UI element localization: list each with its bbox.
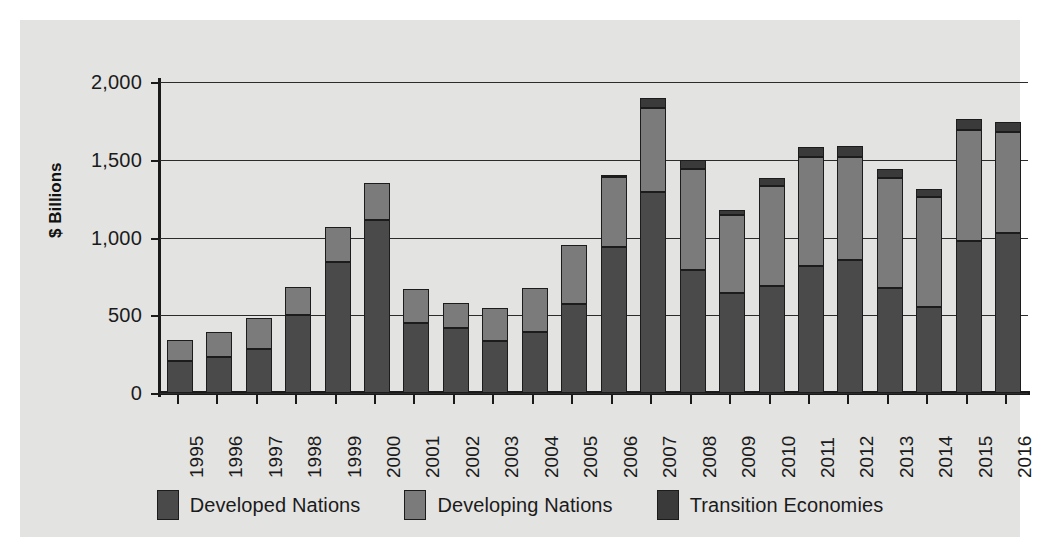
bar-segment[interactable] — [403, 289, 429, 323]
bar-segment[interactable] — [601, 177, 627, 247]
bar-segment[interactable] — [916, 189, 942, 197]
bar-segment[interactable] — [719, 210, 745, 215]
bar-segment[interactable] — [837, 157, 863, 260]
bar-segment[interactable] — [364, 183, 390, 220]
bar-stack[interactable] — [916, 189, 942, 393]
bar-segment[interactable] — [837, 146, 863, 157]
bar-stack[interactable] — [403, 289, 429, 393]
bar-segment[interactable] — [837, 260, 863, 393]
bar-segment[interactable] — [798, 147, 824, 157]
bar-segment[interactable] — [798, 266, 824, 394]
bar-segment[interactable] — [206, 332, 232, 357]
bar-segment[interactable] — [956, 130, 982, 241]
y-axis-tick — [151, 160, 160, 162]
bar-stack[interactable] — [561, 245, 587, 393]
chart-root: $ Billions 05001,0001,5002,000 199519961… — [0, 0, 1038, 550]
bar-segment[interactable] — [956, 119, 982, 130]
bar-segment[interactable] — [680, 160, 706, 169]
bar-segment[interactable] — [719, 215, 745, 293]
x-axis-tick-label: 2012 — [856, 436, 878, 478]
legend-item[interactable]: Transition Economies — [657, 490, 884, 520]
bar-stack[interactable] — [680, 160, 706, 393]
bar-segment[interactable] — [680, 270, 706, 393]
bar-stack[interactable] — [206, 332, 232, 393]
bar-stack[interactable] — [640, 98, 666, 393]
bar-stack[interactable] — [167, 340, 193, 393]
x-axis-tick — [729, 395, 731, 404]
bar-stack[interactable] — [719, 210, 745, 393]
bar-segment[interactable] — [443, 303, 469, 329]
bar-stack[interactable] — [759, 178, 785, 393]
x-axis-tick — [492, 395, 494, 404]
chart-legend: Developed NationsDeveloping NationsTrans… — [20, 490, 1020, 520]
bar-stack[interactable] — [995, 122, 1021, 393]
bar-stack[interactable] — [837, 146, 863, 393]
bar-segment[interactable] — [167, 361, 193, 393]
bar-stack[interactable] — [522, 288, 548, 393]
x-axis-tick-label: 2003 — [501, 436, 523, 478]
bar-segment[interactable] — [759, 186, 785, 286]
bar-segment[interactable] — [916, 197, 942, 307]
x-axis-tick-label: 2014 — [935, 436, 957, 478]
bar-segment[interactable] — [995, 233, 1021, 393]
legend-item[interactable]: Developing Nations — [404, 490, 612, 520]
bar-segment[interactable] — [759, 178, 785, 187]
bar-segment[interactable] — [364, 220, 390, 393]
bar-segment[interactable] — [995, 122, 1021, 131]
x-axis-tick-label: 2015 — [975, 436, 997, 478]
y-axis-labels: 05001,0001,5002,000 — [20, 20, 158, 537]
bar-segment[interactable] — [640, 98, 666, 107]
bar-segment[interactable] — [561, 304, 587, 393]
bar-segment[interactable] — [877, 169, 903, 178]
bar-segment[interactable] — [206, 357, 232, 393]
bar-stack[interactable] — [956, 119, 982, 393]
bar-segment[interactable] — [601, 175, 627, 177]
bar-segment[interactable] — [877, 178, 903, 288]
bar-segment[interactable] — [285, 315, 311, 393]
bar-stack[interactable] — [443, 303, 469, 393]
bar-segment[interactable] — [285, 287, 311, 315]
bar-segment[interactable] — [325, 227, 351, 262]
bar-segment[interactable] — [403, 323, 429, 393]
bar-segment[interactable] — [680, 169, 706, 270]
bar-segment[interactable] — [482, 341, 508, 393]
y-axis-tick-label: 2,000 — [91, 71, 142, 94]
bar-segment[interactable] — [798, 157, 824, 266]
bar-segment[interactable] — [640, 108, 666, 193]
bar-segment[interactable] — [916, 307, 942, 393]
bar-segment[interactable] — [325, 262, 351, 393]
x-axis-tick-label: 2008 — [699, 436, 721, 478]
bar-segment[interactable] — [561, 245, 587, 303]
x-axis-tick-label: 1997 — [265, 436, 287, 478]
bar-stack[interactable] — [798, 147, 824, 393]
bar-segment[interactable] — [601, 247, 627, 393]
bar-segment[interactable] — [443, 328, 469, 393]
bar-segment[interactable] — [246, 318, 272, 348]
x-axis-ticks — [158, 395, 1030, 405]
bar-stack[interactable] — [364, 183, 390, 393]
x-axis-tick-label: 2009 — [738, 436, 760, 478]
bar-stack[interactable] — [482, 308, 508, 393]
legend-item[interactable]: Developed Nations — [157, 490, 361, 520]
bar-stack[interactable] — [246, 318, 272, 393]
bar-segment[interactable] — [167, 340, 193, 361]
bar-stack[interactable] — [325, 227, 351, 393]
legend-swatch-icon — [657, 490, 679, 520]
bar-segment[interactable] — [640, 192, 666, 393]
bar-segment[interactable] — [759, 286, 785, 393]
bar-stack[interactable] — [601, 175, 627, 393]
y-axis-tick — [151, 315, 160, 317]
bar-segment[interactable] — [482, 308, 508, 341]
legend-label: Developed Nations — [190, 494, 361, 517]
y-axis-tick-label: 0 — [131, 382, 142, 405]
bar-stack[interactable] — [877, 169, 903, 393]
bar-segment[interactable] — [522, 332, 548, 393]
bar-stack[interactable] — [285, 287, 311, 393]
bar-segment[interactable] — [719, 293, 745, 393]
plot-area — [160, 82, 1028, 393]
bar-segment[interactable] — [246, 349, 272, 393]
bar-segment[interactable] — [877, 288, 903, 393]
bar-segment[interactable] — [995, 132, 1021, 233]
bar-segment[interactable] — [522, 288, 548, 332]
bar-segment[interactable] — [956, 241, 982, 393]
